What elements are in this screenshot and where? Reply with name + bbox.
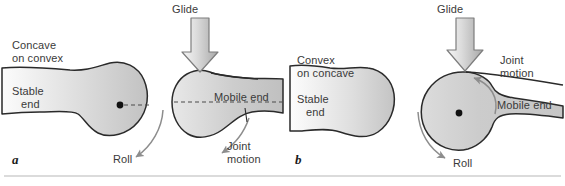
panel-b-letter: b [295,152,302,168]
panel-a-mobile-bone [172,70,283,137]
panel-a-rule-line1: Concave [12,39,63,52]
panel-a-glide-arrow [182,18,218,72]
panel-a-joint-motion-label: Joint motion [227,140,261,165]
panel-a-rule-label: Concave on convex [12,39,63,64]
panel-a-rule-line2: on convex [12,52,63,65]
panel-a-stable-label: Stable end [12,85,44,110]
panel-b-stable-line1: Stable [297,93,329,106]
joint-arthrokinematics-figure: Concave on convex Stable end Glide Mobil… [0,0,565,186]
panel-a-letter: a [12,152,19,168]
panel-b-axis-dot [456,110,463,117]
panel-b-glide-arrow [447,18,483,71]
panel-a-axis-dot [117,102,124,109]
panel-b-rule-line1: Convex [297,54,354,67]
panel-a-joint-motion-line2: motion [227,153,261,166]
panel-b-joint-motion-line1: Joint [500,54,534,67]
panel-a-stable-line1: Stable [12,85,44,98]
panel-a-mobile-label: Mobile end [214,91,269,104]
panel-b-rule-line2: on concave [297,67,354,80]
panel-b-stable-line2: end [297,106,329,119]
panel-a-roll-label: Roll [113,153,132,166]
panel-b-glide-label: Glide [437,3,463,16]
panel-b-graphics [290,18,563,158]
panel-a-stable-line2: end [12,98,44,111]
panel-b-joint-motion-line2: motion [500,67,534,80]
panel-b-mobile-label: Mobile end [497,99,552,112]
panel-b-stable-label: Stable end [297,93,329,118]
panel-a-joint-motion-line1: Joint [227,140,261,153]
figure-graphics [0,0,565,186]
panel-b-rule-label: Convex on concave [297,54,354,79]
panel-b-joint-motion-label: Joint motion [500,54,534,79]
panel-b-roll-label: Roll [453,157,472,170]
panel-a-glide-label: Glide [172,3,198,16]
